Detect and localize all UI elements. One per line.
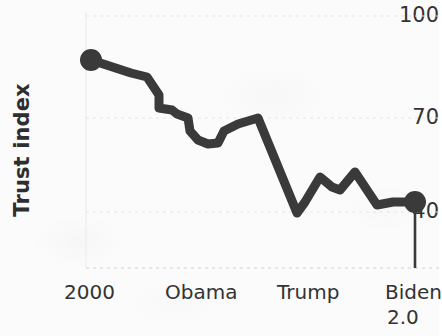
trust-index-line [91,60,415,213]
start-marker-2000 [80,49,102,71]
end-marker-biden [404,191,426,213]
